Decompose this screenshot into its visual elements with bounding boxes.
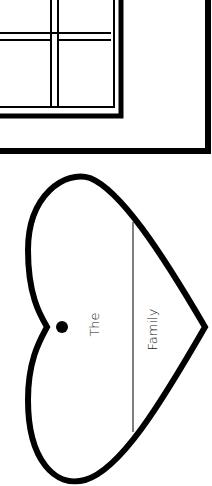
- heart-label-suffix: Family: [145, 300, 160, 360]
- heart-shape: [28, 177, 205, 482]
- heart-label-prefix: The: [87, 305, 102, 345]
- worksheet-canvas: [0, 0, 212, 486]
- hanger-hole: [56, 321, 68, 333]
- window-frame: [0, 0, 121, 116]
- outer-frame: [0, 0, 208, 151]
